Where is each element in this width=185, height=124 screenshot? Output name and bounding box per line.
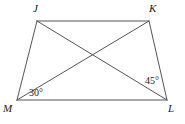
vertex-label-m: M	[3, 103, 12, 114]
side-KL	[149, 21, 167, 100]
diagonal-JL	[37, 21, 167, 100]
vertex-label-l: L	[168, 103, 174, 114]
vertex-label-j: J	[33, 3, 38, 14]
geometry-canvas	[0, 0, 185, 124]
vertex-label-k: K	[149, 3, 156, 14]
angle-label-l-45: 45°	[145, 76, 159, 86]
angle-label-m-30: 30°	[29, 88, 43, 98]
geometry-figure: J K L M 30° 45°	[0, 0, 185, 124]
